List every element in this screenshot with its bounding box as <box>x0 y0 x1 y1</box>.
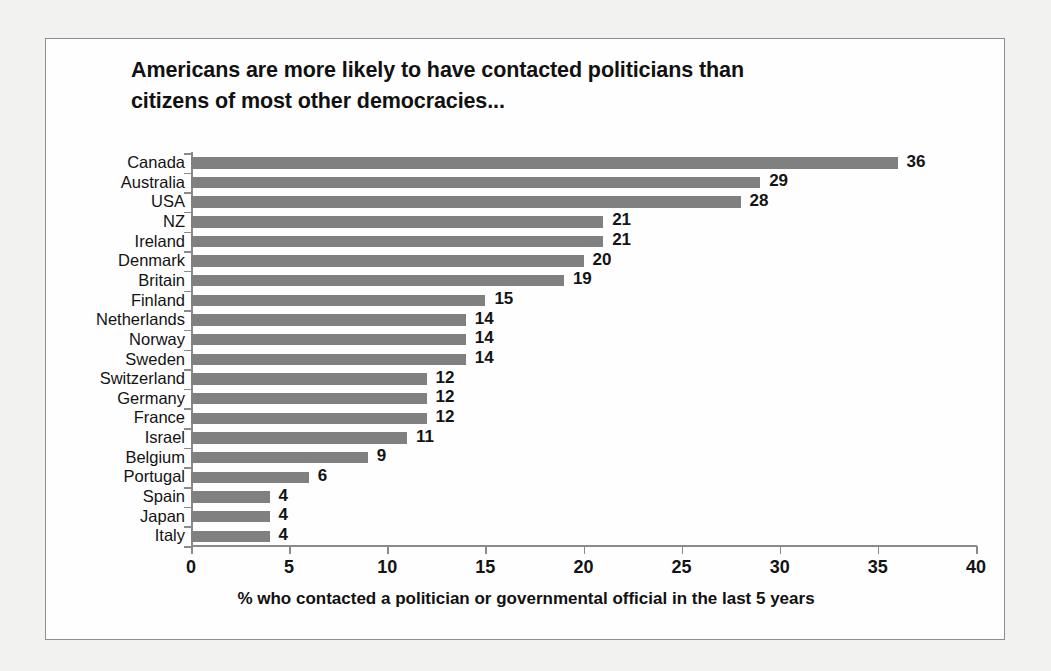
x-axis-tick-label: 5 <box>284 557 294 578</box>
x-axis-tick-label: 30 <box>770 557 790 578</box>
x-axis-tick <box>584 546 586 554</box>
bar-row: 29 <box>191 173 976 193</box>
y-axis-tick <box>184 507 192 509</box>
y-axis-label-finland: Finland <box>35 291 185 311</box>
bar-row: 12 <box>191 369 976 389</box>
y-axis-tick <box>184 467 192 469</box>
bar-denmark <box>191 255 584 266</box>
bar-value-label: 15 <box>494 289 513 309</box>
y-axis-tick <box>184 251 192 253</box>
y-axis-tick <box>184 408 192 410</box>
x-axis-tick <box>780 546 782 554</box>
bar-japan <box>191 511 270 522</box>
bar-row: 4 <box>191 507 976 527</box>
x-axis-tick-label: 40 <box>966 557 986 578</box>
plot-area: 36292821212019151414141212121196444 <box>191 153 976 546</box>
bar-value-label: 20 <box>593 250 612 270</box>
bar-row: 19 <box>191 271 976 291</box>
y-axis-tick <box>184 232 192 234</box>
bar-row: 14 <box>191 330 976 350</box>
chart-title-line-1: Americans are more likely to have contac… <box>131 55 961 86</box>
bar-row: 15 <box>191 291 976 311</box>
x-axis-tick-label: 0 <box>186 557 196 578</box>
y-axis-label-switzerland: Switzerland <box>35 369 185 389</box>
bar-row: 21 <box>191 232 976 252</box>
bar-value-label: 12 <box>436 368 455 388</box>
y-axis-label-france: France <box>35 408 185 428</box>
bar-value-label: 12 <box>436 387 455 407</box>
x-axis-title: % who contacted a politician or governme… <box>46 589 1006 609</box>
bar-israel <box>191 432 407 443</box>
y-axis-category-labels: CanadaAustraliaUSANZIrelandDenmarkBritai… <box>35 153 185 546</box>
chart-title-line-2: citizens of most other democracies... <box>131 86 961 117</box>
y-axis-label-norway: Norway <box>35 330 185 350</box>
bar-value-label: 6 <box>318 466 327 486</box>
bar-canada <box>191 157 898 168</box>
x-axis-tick-label: 25 <box>672 557 692 578</box>
y-axis-label-ireland: Ireland <box>35 232 185 252</box>
bar-value-label: 4 <box>279 505 288 525</box>
y-axis-tick <box>184 192 192 194</box>
bar-row: 21 <box>191 212 976 232</box>
bar-value-label: 12 <box>436 407 455 427</box>
bar-row: 28 <box>191 192 976 212</box>
bar-row: 4 <box>191 487 976 507</box>
y-axis-tick <box>184 173 192 175</box>
bar-value-label: 21 <box>612 210 631 230</box>
y-axis-label-canada: Canada <box>35 153 185 173</box>
y-axis-label-denmark: Denmark <box>35 251 185 271</box>
y-axis-label-spain: Spain <box>35 487 185 507</box>
bar-spain <box>191 491 270 502</box>
bar-value-label: 9 <box>377 446 386 466</box>
bar-row: 14 <box>191 310 976 330</box>
bar-britain <box>191 275 564 286</box>
bar-sweden <box>191 354 466 365</box>
bar-portugal <box>191 472 309 483</box>
bar-value-label: 28 <box>750 191 769 211</box>
bar-value-label: 4 <box>279 525 288 545</box>
bar-germany <box>191 393 427 404</box>
bar-value-label: 14 <box>475 328 494 348</box>
y-axis-label-israel: Israel <box>35 428 185 448</box>
y-axis-tick <box>184 310 192 312</box>
bar-value-label: 14 <box>475 309 494 329</box>
y-axis-tick <box>184 526 192 528</box>
bar-value-label: 29 <box>769 171 788 191</box>
x-axis-tick-label: 35 <box>868 557 888 578</box>
x-axis-tick-label: 10 <box>377 557 397 578</box>
bar-row: 20 <box>191 251 976 271</box>
bar-row: 12 <box>191 389 976 409</box>
x-axis-tick-label: 20 <box>573 557 593 578</box>
bar-switzerland <box>191 373 427 384</box>
y-axis-tick <box>184 546 192 548</box>
bar-row: 36 <box>191 153 976 173</box>
bar-row: 9 <box>191 448 976 468</box>
bar-norway <box>191 334 466 345</box>
y-axis-tick <box>184 350 192 352</box>
x-axis-tick <box>682 546 684 554</box>
y-axis-tick <box>184 153 192 155</box>
y-axis-tick <box>184 389 192 391</box>
y-axis-label-belgium: Belgium <box>35 448 185 468</box>
y-axis-label-usa: USA <box>35 192 185 212</box>
y-axis-label-germany: Germany <box>35 389 185 409</box>
bar-belgium <box>191 452 368 463</box>
y-axis-tick <box>184 428 192 430</box>
bar-value-label: 21 <box>612 230 631 250</box>
y-axis-tick <box>184 487 192 489</box>
y-axis-label-netherlands: Netherlands <box>35 310 185 330</box>
x-axis-tick-label: 15 <box>475 557 495 578</box>
y-axis-tick <box>184 330 192 332</box>
bar-ireland <box>191 236 603 247</box>
bar-australia <box>191 177 760 188</box>
chart-figure-frame: Americans are more likely to have contac… <box>45 38 1005 640</box>
y-axis-tick <box>184 448 192 450</box>
bar-row: 12 <box>191 408 976 428</box>
chart-title: Americans are more likely to have contac… <box>131 55 961 116</box>
y-axis-tick <box>184 369 192 371</box>
bar-france <box>191 413 427 424</box>
bar-nz <box>191 216 603 227</box>
bar-value-label: 19 <box>573 269 592 289</box>
bar-netherlands <box>191 314 466 325</box>
y-axis-label-nz: NZ <box>35 212 185 232</box>
